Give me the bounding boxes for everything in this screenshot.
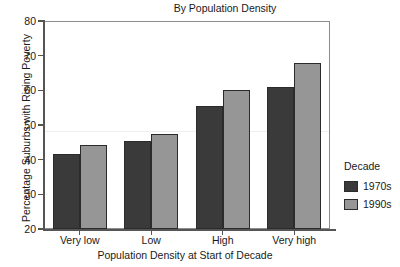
x-axis-title: Population Density at Start of Decade <box>40 249 330 262</box>
y-tick-50 <box>38 124 44 125</box>
y-tick-label-text: 20 <box>12 224 36 234</box>
y-tick-label-80: 80 <box>8 16 36 26</box>
bar-chart-figure: By Population Density Percentage Suburbs… <box>0 0 400 267</box>
y-tick-label-text: 30 <box>12 189 36 199</box>
x-axis-line <box>43 229 336 231</box>
y-tick-70 <box>38 55 44 56</box>
y-tick-60 <box>38 90 44 91</box>
y-tick-label-20: 20 <box>8 224 36 234</box>
y-tick-80 <box>38 20 44 21</box>
y-tick-label-text: 70 <box>12 51 36 61</box>
legend-swatch-icon-1970s <box>344 181 358 192</box>
y-tick-label-30: 30 <box>8 189 36 199</box>
y-tick-label-text: 50 <box>12 120 36 130</box>
bar-1970s-high <box>196 106 223 229</box>
bar-1990s-very-low <box>80 145 107 229</box>
y-tick-label-60: 60 <box>8 85 36 95</box>
legend-label: 1970s <box>363 181 392 192</box>
legend-swatch-icon-1990s <box>344 199 358 210</box>
x-category-label-very-high: Very high <box>249 234 339 247</box>
y-tick-20 <box>38 228 44 229</box>
y-tick-label-70: 70 <box>8 51 36 61</box>
bar-1970s-very-high <box>267 87 294 229</box>
bar-1990s-very-high <box>294 63 321 229</box>
legend-title: Decade <box>344 160 400 172</box>
chart-title: By Population Density <box>120 2 330 15</box>
bar-1990s-low <box>151 134 178 229</box>
y-tick-label-text: 60 <box>12 85 36 95</box>
legend-label: 1990s <box>363 199 392 210</box>
y-tick-label-40: 40 <box>8 155 36 165</box>
y-tick-label-text: 80 <box>12 16 36 26</box>
y-tick-30 <box>38 194 44 195</box>
y-tick-label-50: 50 <box>8 120 36 130</box>
y-tick-label-text: 40 <box>12 155 36 165</box>
bar-1990s-high <box>223 90 250 229</box>
bar-1970s-very-low <box>53 154 80 229</box>
legend-item-1970s[interactable]: 1970s <box>344 181 400 192</box>
legend: Decade 1970s1990s <box>344 160 400 217</box>
y-tick-40 <box>38 159 44 160</box>
bar-1970s-low <box>124 141 151 229</box>
legend-item-1990s[interactable]: 1990s <box>344 199 400 210</box>
legend-items: 1970s1990s <box>344 181 400 210</box>
